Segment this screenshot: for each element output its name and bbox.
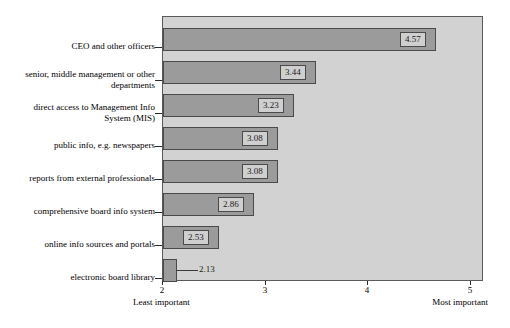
x-tick-label-3: 5: [460, 285, 480, 296]
category-label-4: reports from external professionals: [0, 173, 155, 184]
category-label-2: direct access to Management Info System …: [0, 102, 155, 124]
x-tick-label-2: 4: [357, 285, 377, 296]
category-tick-5: [155, 212, 162, 213]
bar-0[interactable]: [163, 28, 436, 51]
category-tick-4: [155, 179, 162, 180]
x-tick-label-1: 3: [255, 285, 275, 296]
category-label-5: comprehensive board info system: [0, 206, 155, 217]
category-tick-2: [155, 113, 162, 114]
axis-high-label: Most important: [432, 297, 488, 308]
bar-7[interactable]: [163, 259, 177, 282]
bar-chart: 4.57 3.44 3.23 3.08 3.08 2.86 2.53 2.13 …: [0, 0, 510, 328]
axis-low-label: Least important: [133, 297, 190, 308]
value-label-0: 4.57: [400, 32, 426, 47]
value-label-2: 3.23: [258, 98, 284, 113]
category-label-1: senior, middle management or other depar…: [0, 69, 155, 91]
category-tick-3: [155, 146, 162, 147]
value-label-5: 2.86: [218, 197, 244, 212]
x-tick-label-0: 2: [152, 285, 172, 296]
value-label-6: 2.53: [183, 230, 209, 245]
category-tick-6: [155, 245, 162, 246]
value-label-1: 3.44: [280, 65, 306, 80]
category-label-6: online info sources and portals: [0, 239, 155, 250]
category-tick-7: [155, 278, 162, 279]
value-label-3: 3.08: [242, 131, 268, 146]
category-tick-1: [155, 80, 162, 81]
leader-line-7: [176, 270, 198, 271]
value-label-7: 2.13: [199, 263, 215, 278]
plot-area: 4.57 3.44 3.23 3.08 3.08 2.86 2.53 2.13: [162, 16, 483, 281]
category-label-7: electronic board library: [0, 272, 155, 283]
category-tick-0: [155, 47, 162, 48]
category-label-3: public info, e.g. newspapers: [0, 140, 155, 151]
category-label-0: CEO and other officers: [0, 41, 155, 52]
value-label-4: 3.08: [242, 164, 268, 179]
